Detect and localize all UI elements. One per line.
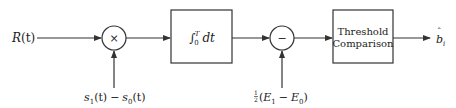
multiplier-node: × [102, 26, 126, 50]
svg-text:ˆ: ˆ [437, 27, 442, 37]
subtract-symbol: − [277, 32, 286, 45]
subtractor-node: − [270, 26, 294, 50]
block-diagram: R(t) × s1(t)−s0(t) ∫0Tdt − 1 2 (E1−E0) T… [0, 0, 456, 108]
svg-text:i: i [443, 40, 445, 48]
integrator-block: ∫0Tdt [171, 10, 232, 63]
integrator-label: ∫0Tdt [189, 30, 215, 47]
input-label: R(t) [11, 31, 35, 45]
svg-text:2: 2 [254, 96, 258, 103]
multiply-symbol: × [109, 32, 118, 45]
svg-text:1: 1 [254, 89, 258, 96]
output-label: b ˆ i [436, 27, 445, 48]
threshold-comparison-block: Threshold Comparison [332, 10, 394, 63]
bias-label: 1 2 (E1−E0) [254, 89, 308, 106]
threshold-label-line2: Comparison [332, 38, 394, 49]
reference-signal-label: s1(t)−s0(t) [84, 91, 146, 106]
svg-text:(E1−E0): (E1−E0) [259, 91, 308, 106]
threshold-label-line1: Threshold [337, 26, 389, 37]
